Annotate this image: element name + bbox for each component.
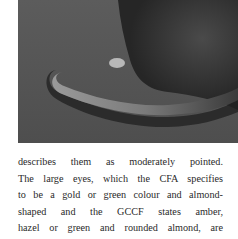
text-line: to be a gold or green colour and almond- bbox=[18, 187, 223, 204]
text-line: hazel or green and rounded almond, are bbox=[18, 220, 223, 237]
text-line: shaped and the GCCF states amber, bbox=[18, 204, 223, 221]
cat-photo bbox=[18, 0, 238, 143]
article-body-text: describes them as moderately pointed. Th… bbox=[18, 154, 223, 237]
cat-tail-image bbox=[18, 0, 238, 143]
text-line: describes them as moderately pointed. bbox=[18, 154, 223, 171]
text-line: The large eyes, which the CFA specifies bbox=[18, 171, 223, 188]
